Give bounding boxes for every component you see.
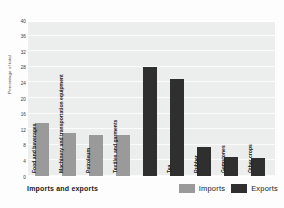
x-axis-title: Imports and exports [27, 185, 98, 192]
y-tick-label: 8 [10, 143, 26, 148]
y-axis: 0481216202428323640 [10, 16, 26, 182]
chart-legend: ImportsExports [179, 184, 278, 193]
y-tick-label: 24 [10, 81, 26, 86]
bar-category-label: Rubber [193, 155, 199, 173]
bar[interactable] [89, 135, 103, 176]
bar[interactable] [35, 123, 49, 176]
y-tick-label: 20 [10, 97, 26, 102]
y-tick-label: 32 [10, 50, 26, 55]
y-tick-label: 36 [10, 34, 26, 39]
legend-swatch [179, 184, 195, 193]
bar[interactable] [197, 147, 211, 176]
legend-swatch [231, 184, 247, 193]
bar[interactable] [62, 133, 76, 176]
bar-category-label: Other crops [247, 144, 253, 173]
y-tick-label: 12 [10, 128, 26, 133]
gridline [28, 50, 275, 51]
y-tick-label: 4 [10, 159, 26, 164]
legend-label: Imports [199, 184, 225, 193]
bar-chart-figure: 0481216202428323640 Percentage of total … [0, 0, 284, 208]
bar[interactable] [170, 79, 184, 177]
legend-entry[interactable]: Imports [179, 184, 225, 193]
gridline [28, 19, 275, 20]
gridline [28, 35, 275, 36]
bar[interactable] [224, 157, 238, 177]
y-tick-label: 40 [10, 19, 26, 24]
bar[interactable] [143, 67, 157, 176]
bar-category-label: Petroleum [85, 148, 91, 173]
bar[interactable] [251, 158, 265, 176]
legend-entry[interactable]: Exports [231, 184, 278, 193]
y-tick-label: 0 [10, 175, 26, 180]
bar-category-label: Food and beverages [31, 123, 37, 173]
legend-label: Exports [251, 184, 278, 193]
y-axis-title: Percentage of total [7, 43, 12, 107]
bar-category-label: Textiles and garments [112, 120, 118, 173]
y-tick-label: 16 [10, 112, 26, 117]
bar-category-label: Machinery and transportation equipment [58, 74, 64, 173]
plot-area: Food and beveragesMachinery and transpor… [27, 21, 276, 177]
bar-category-label: Gemstones [220, 145, 226, 173]
y-tick-label: 28 [10, 65, 26, 70]
bar-category-label: Tea [166, 165, 172, 173]
bar[interactable] [116, 135, 130, 176]
